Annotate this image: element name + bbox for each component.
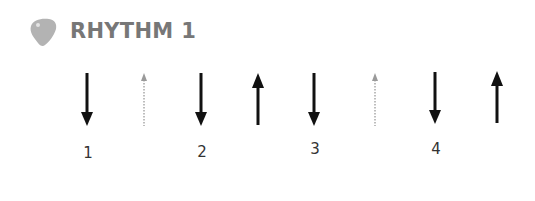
beat-label-1: 1 xyxy=(78,143,98,163)
up-strum-arrow-icon xyxy=(248,68,268,130)
rhythm-header: RHYTHM 1 xyxy=(0,0,535,60)
down-strum-arrow-icon xyxy=(304,68,324,130)
down-strum-arrow-icon xyxy=(425,68,445,130)
beat-label-2: 2 xyxy=(192,142,212,162)
down-strum-arrow-icon xyxy=(191,68,211,130)
up-strum-dotted-arrow-icon xyxy=(134,68,154,130)
beat-label-4: 4 xyxy=(426,139,446,159)
guitar-pick-icon xyxy=(27,17,57,47)
up-strum-dotted-arrow-icon xyxy=(365,68,385,130)
beat-label-3: 3 xyxy=(305,139,325,159)
down-strum-arrow-icon xyxy=(77,68,97,130)
rhythm-title: RHYTHM 1 xyxy=(70,17,196,45)
up-strum-arrow-icon xyxy=(487,68,507,130)
